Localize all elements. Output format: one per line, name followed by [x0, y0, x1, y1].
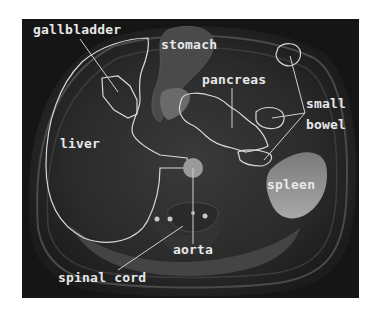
label-spinal-cord: spinal cord [58, 270, 146, 285]
label-gallbladder: gallbladder [33, 22, 121, 37]
label-aorta: aorta [173, 242, 213, 257]
label-stomach: stomach [161, 37, 217, 52]
label-spleen: spleen [267, 177, 315, 192]
mri-figure: gallbladder stomach pancreas small bowel… [0, 0, 379, 317]
label-liver: liver [60, 136, 100, 151]
label-pancreas: pancreas [202, 72, 266, 87]
label-bowel: bowel [306, 117, 346, 132]
label-small: small [306, 96, 346, 111]
